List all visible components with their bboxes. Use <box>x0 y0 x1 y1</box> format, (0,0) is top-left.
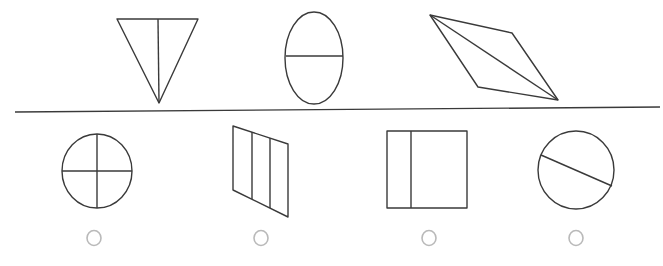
item-canvas <box>0 0 663 266</box>
answer-option-a[interactable] <box>62 134 132 208</box>
slanted-quadrilateral-outline <box>233 126 288 217</box>
answer-option-b[interactable] <box>233 126 288 217</box>
response-bubble-row <box>87 231 583 246</box>
test-item-page: Visual Analogy / Matrix Reasoning Item <box>0 0 663 266</box>
prompt-shape-parallelogram <box>430 15 558 100</box>
answer-bubble-a[interactable] <box>87 231 101 246</box>
answer-bubble-c[interactable] <box>422 231 436 246</box>
answer-option-d[interactable] <box>538 131 614 209</box>
prompt-row <box>117 12 558 104</box>
parallelogram-diagonal-divider <box>430 15 558 100</box>
horizontal-separator-line <box>15 107 660 112</box>
prompt-shape-ellipse <box>285 12 343 104</box>
prompt-shape-triangle <box>117 19 198 103</box>
triangle-vertical-divider <box>158 19 159 103</box>
ellipse-outline <box>285 12 343 104</box>
answer-row <box>62 126 614 217</box>
circle-diagonal-divider <box>541 155 612 186</box>
square-outline <box>387 131 467 208</box>
answer-bubble-b[interactable] <box>254 231 268 246</box>
answer-option-c[interactable] <box>387 131 467 208</box>
answer-bubble-d[interactable] <box>569 231 583 246</box>
